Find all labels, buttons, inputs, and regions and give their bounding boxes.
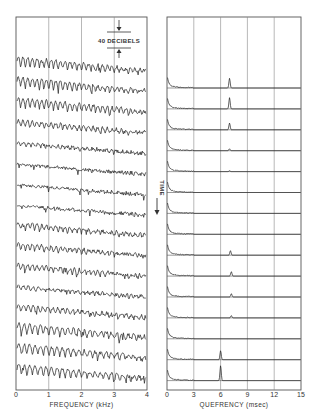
cepstrum-trace xyxy=(168,140,301,150)
cepstrum-trace xyxy=(168,182,301,192)
quefrency-tick: 6 xyxy=(219,391,223,398)
time-label-group: TIME xyxy=(155,180,165,215)
quefrency-tick: 0 xyxy=(165,391,169,398)
frequency-tick: 1 xyxy=(47,391,51,398)
scale-bar: 40 DECIBELS xyxy=(98,20,140,58)
cepstrum-trace xyxy=(168,349,301,359)
cepstrum-trace xyxy=(168,119,301,129)
cepstrum-trace xyxy=(168,328,301,338)
frequency-tick: 4 xyxy=(145,391,149,398)
cepstrum-trace xyxy=(168,287,301,297)
cepstrum-panel: 03691215 QUEFRENCY (msec) xyxy=(165,17,305,409)
cepstrum-traces xyxy=(167,78,301,381)
cepstrum-trace xyxy=(168,78,301,88)
frequency-tick: 3 xyxy=(112,391,116,398)
time-arrowhead-icon xyxy=(155,210,160,215)
cepstrum-trace xyxy=(168,366,301,381)
spectrum-panel: 40 DECIBELS 01234 FREQUENCY (kHz) xyxy=(14,17,149,409)
cepstrum-trace xyxy=(168,266,301,276)
frequency-tick-labels: 01234 xyxy=(14,391,149,398)
quefrency-tick: 9 xyxy=(245,391,249,398)
time-label: TIME xyxy=(159,180,165,196)
cepstrum-trace xyxy=(168,203,301,213)
cepstrum-trace xyxy=(168,224,301,234)
cepstrum-gridlines xyxy=(194,17,274,390)
frequency-tick: 0 xyxy=(14,391,18,398)
quefrency-axis-title: QUEFRENCY (msec) xyxy=(200,401,269,409)
quefrency-tick: 3 xyxy=(192,391,196,398)
scale-bar-label: 40 DECIBELS xyxy=(98,38,140,44)
cepstrum-frame xyxy=(167,17,301,390)
quefrency-tick-labels: 03691215 xyxy=(165,391,305,398)
frequency-axis-title: FREQUENCY (kHz) xyxy=(49,401,113,409)
quefrency-tick: 15 xyxy=(297,391,305,398)
frequency-tick: 2 xyxy=(80,391,84,398)
cepstrum-trace xyxy=(168,245,301,255)
figure: 40 DECIBELS 01234 FREQUENCY (kHz) TIME 0… xyxy=(0,0,313,416)
cepstrum-trace xyxy=(168,161,301,171)
quefrency-tick: 12 xyxy=(270,391,278,398)
cepstrum-trace xyxy=(168,98,301,109)
cepstrum-trace xyxy=(168,308,301,318)
